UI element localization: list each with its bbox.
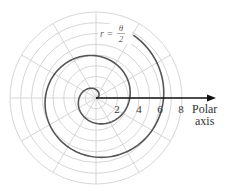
axis-label-line-2: axis — [195, 114, 215, 128]
curve-label-denominator: 2 — [119, 34, 124, 44]
grid-spoke — [96, 55, 170, 98]
grid-spoke — [53, 98, 96, 172]
tick-label: 8 — [178, 103, 184, 115]
curve-label-lhs: r = — [100, 28, 113, 39]
grid-spoke — [53, 24, 96, 98]
curve-label: r = θ 2 — [98, 23, 132, 44]
polar-axis — [96, 95, 216, 102]
curve-label-numerator: θ — [119, 23, 124, 33]
polar-plot: 2 4 6 8 Polar axis r = θ 2 — [0, 0, 227, 196]
tick-label: 4 — [136, 103, 142, 115]
tick-label: 6 — [157, 103, 163, 115]
grid-spoke — [22, 55, 96, 98]
arrow-head-icon — [207, 95, 216, 102]
tick-label: 2 — [114, 103, 120, 115]
spiral-curve — [45, 35, 164, 157]
grid-spoke — [22, 98, 96, 141]
